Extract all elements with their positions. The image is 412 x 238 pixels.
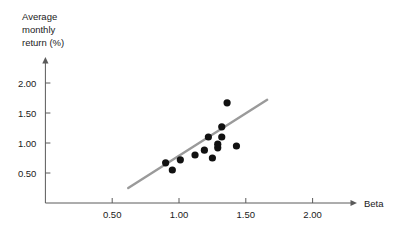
y-axis-title: Average (22, 11, 57, 22)
y-tick-label: 1.00 (18, 138, 37, 149)
x-tick-label: 0.50 (103, 209, 122, 220)
y-tick-label: 1.50 (18, 108, 37, 119)
trend-line (128, 100, 267, 188)
data-point (214, 141, 221, 148)
x-tick-label: 1.00 (170, 209, 189, 220)
x-axis-title: Beta (364, 198, 384, 209)
chart-canvas: 0.501.001.502.000.501.001.502.00Averagem… (0, 0, 412, 238)
data-point (169, 166, 176, 173)
y-tick-label: 0.50 (18, 168, 37, 179)
data-point (223, 99, 230, 106)
x-tick-label: 1.50 (237, 209, 256, 220)
data-point (218, 123, 225, 130)
data-point (218, 133, 225, 140)
y-axis-title: return (%) (22, 37, 64, 48)
data-point (191, 151, 198, 158)
x-tick-label: 2.00 (303, 209, 322, 220)
data-point (201, 147, 208, 154)
data-point (177, 156, 184, 163)
data-point (162, 159, 169, 166)
x-axis-arrow (351, 200, 358, 206)
data-point (209, 154, 216, 161)
y-axis-title: monthly (22, 24, 56, 35)
y-tick-label: 2.00 (18, 78, 37, 89)
data-point (233, 142, 240, 149)
y-axis-arrow (42, 57, 48, 64)
scatter-chart: 0.501.001.502.000.501.001.502.00Averagem… (0, 0, 412, 238)
data-point (205, 133, 212, 140)
